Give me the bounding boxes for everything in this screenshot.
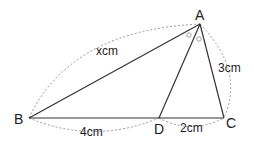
label-d: D — [154, 121, 164, 137]
label-ab-length: xcm — [96, 44, 118, 58]
label-ac-length: 3cm — [218, 61, 241, 75]
label-b: B — [14, 111, 23, 127]
angle-mark-bad — [187, 33, 191, 37]
label-a: A — [195, 7, 205, 23]
angle-mark-dac — [197, 37, 201, 41]
edge-ab — [29, 24, 200, 118]
label-dc-length: 2cm — [180, 121, 203, 135]
triangle-diagram: A B C D xcm 3cm 4cm 2cm — [0, 0, 254, 147]
label-bd-length: 4cm — [80, 125, 103, 139]
edge-ad — [159, 24, 200, 118]
label-c: C — [226, 115, 236, 131]
